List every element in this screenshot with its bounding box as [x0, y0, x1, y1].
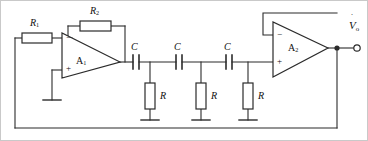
pin-a1-inverting: −	[66, 33, 71, 42]
label-output-voltage: ̇ Vo	[349, 20, 359, 32]
pin-a2-inverting: −	[277, 30, 282, 39]
pin-a2-noninverting: +	[277, 57, 282, 66]
label-rshunt1: R	[160, 91, 166, 101]
label-rshunt2: R	[211, 91, 217, 101]
resistor-rshunt2-body	[196, 83, 206, 109]
label-opamp-a1: A1	[76, 56, 86, 67]
label-opamp-a2: A2	[288, 43, 298, 54]
resistor-rshunt3-body	[243, 83, 253, 109]
label-c3: C	[224, 42, 231, 52]
label-c2: C	[174, 42, 181, 52]
label-rshunt3: R	[258, 91, 264, 101]
label-c1: C	[131, 42, 138, 52]
resistor-rshunt1-body	[145, 83, 155, 109]
circuit-schematic-svg	[0, 0, 368, 141]
pin-a1-noninverting: +	[66, 64, 71, 73]
output-terminal-circle[interactable]	[354, 45, 360, 51]
label-r2: R2	[90, 6, 99, 17]
label-r1: R1	[30, 18, 39, 29]
circuit-figure: R1 R2 C C C R R R A1 A2 − + − + ̇ Vo	[0, 0, 368, 141]
resistor-r2-body	[80, 21, 111, 31]
node-dot-output	[334, 45, 339, 50]
resistor-r1-body	[22, 33, 52, 43]
